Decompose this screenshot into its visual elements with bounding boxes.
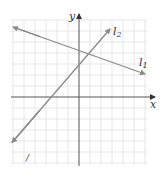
y-axis-label: y: [68, 10, 76, 23]
graph-svg: y x l2 l1 /: [0, 0, 161, 174]
stray-mark: /: [25, 153, 30, 163]
line-l1-label-sub: 1: [143, 61, 148, 70]
line-l1-left-end: [13, 27, 40, 37]
x-axis-label: x: [150, 98, 157, 111]
line-l2-label: l2: [113, 25, 122, 39]
line-l1-label: l1: [139, 56, 148, 70]
line-l2-bottom-end: [12, 110, 40, 143]
line-l2-label-sub: 2: [116, 30, 122, 39]
coordinate-plane-figure: y x l2 l1 /: [0, 0, 161, 174]
